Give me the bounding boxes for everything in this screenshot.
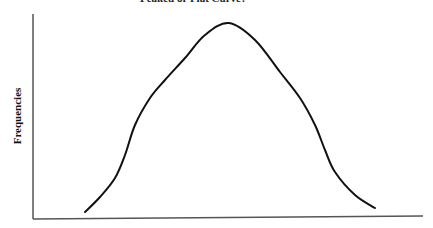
chart-canvas (0, 0, 433, 228)
x-axis (33, 216, 423, 219)
bell-curve (85, 23, 375, 212)
